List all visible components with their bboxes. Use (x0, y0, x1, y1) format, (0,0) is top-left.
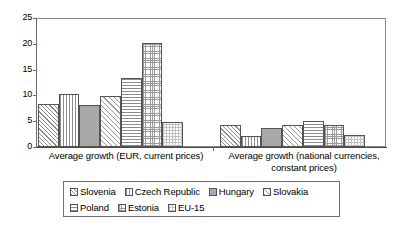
legend-item-eu-15[interactable]: EU-15 (168, 203, 204, 213)
legend-item-slovenia[interactable]: Slovenia (70, 187, 116, 197)
y-tick-label: 0 (27, 142, 32, 151)
y-tick-label: 10 (22, 90, 32, 99)
bar-poland-g2 (303, 121, 324, 147)
legend-label: Slovakia (273, 187, 308, 197)
bar-czech-republic-g1 (59, 94, 80, 147)
bar-eu-15-g2 (344, 135, 365, 147)
x-axis-line (36, 147, 387, 148)
legend-swatch-icon (168, 204, 176, 212)
legend-row-2: PolandEstoniaEU-15 (64, 200, 345, 216)
category-label-2: Average growth (national currencies, con… (214, 150, 394, 173)
legend-swatch-icon (70, 188, 78, 196)
legend-label: Slovenia (80, 187, 116, 197)
legend-label: Estonia (128, 203, 159, 213)
bar-poland-g1 (121, 78, 142, 147)
legend-row-1: SloveniaCzech RepublicHungarySlovakia (64, 184, 345, 200)
bar-slovakia-g2 (282, 125, 303, 147)
bar-slovenia-g1 (38, 104, 59, 147)
legend-label: Czech Republic (135, 187, 200, 197)
bar-eu-15-g1 (162, 122, 183, 147)
legend-swatch-icon (209, 188, 217, 196)
category-label-1: Average growth (EUR, current prices) (36, 150, 216, 162)
legend-label: Hungary (219, 187, 254, 197)
y-tick-label: 25 (22, 13, 32, 22)
legend: SloveniaCzech RepublicHungarySlovakia Po… (63, 181, 340, 217)
legend-item-poland[interactable]: Poland (70, 203, 109, 213)
y-tick-label: 15 (22, 65, 32, 74)
bar-czech-republic-g2 (241, 136, 262, 147)
y-tick (33, 147, 37, 148)
legend-label: EU-15 (178, 203, 204, 213)
legend-item-hungary[interactable]: Hungary (209, 187, 254, 197)
legend-item-slovakia[interactable]: Slovakia (263, 187, 308, 197)
y-tick-label: 5 (27, 116, 32, 125)
bar-slovakia-g1 (100, 96, 121, 147)
bar-estonia-g1 (142, 43, 163, 147)
bar-hungary-g1 (79, 105, 100, 147)
bar-estonia-g2 (324, 125, 345, 147)
legend-swatch-icon (263, 188, 271, 196)
legend-swatch-icon (70, 204, 78, 212)
bars-layer (36, 18, 386, 147)
legend-swatch-icon (125, 188, 133, 196)
bar-slovenia-g2 (220, 125, 241, 147)
y-tick-label: 20 (22, 39, 32, 48)
legend-swatch-icon (118, 204, 126, 212)
legend-item-czech-republic[interactable]: Czech Republic (125, 187, 200, 197)
bar-hungary-g2 (261, 128, 282, 147)
legend-item-estonia[interactable]: Estonia (118, 203, 159, 213)
legend-label: Poland (80, 203, 109, 213)
bar-chart: 0510152025 Average growth (EUR, current … (0, 0, 403, 228)
